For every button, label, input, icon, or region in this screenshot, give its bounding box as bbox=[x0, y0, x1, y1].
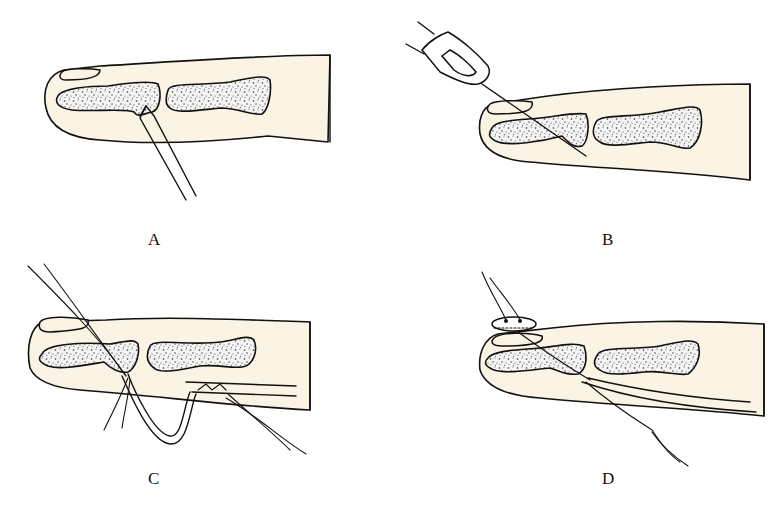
panel-label-b: B bbox=[602, 231, 613, 248]
finger-drawing-a bbox=[0, 0, 390, 258]
panel-d: D bbox=[390, 258, 781, 516]
panel-b: B bbox=[390, 0, 781, 258]
finger-drawing-b bbox=[390, 0, 781, 258]
panel-label-d: D bbox=[602, 470, 614, 487]
panel-label-c: C bbox=[148, 470, 159, 487]
panel-c: C bbox=[0, 258, 390, 516]
panel-a: A bbox=[0, 0, 390, 258]
finger-drawing-d bbox=[390, 258, 781, 516]
finger-drawing-c bbox=[0, 258, 390, 516]
button-icon bbox=[492, 317, 536, 331]
panel-label-a: A bbox=[148, 231, 160, 248]
